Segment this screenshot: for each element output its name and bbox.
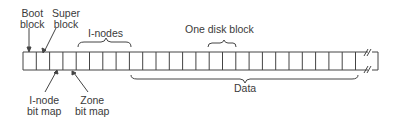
one-disk-block-label: One disk block [185, 24, 254, 35]
inodes-label: I-nodes [88, 28, 123, 39]
inode-bitmap-label: I-node bit map [27, 95, 61, 117]
data-label: Data [234, 83, 256, 94]
zone-bitmap-label: Zone bit map [75, 95, 109, 117]
super-block-label: Super block [52, 8, 80, 30]
boot-block-label: Boot block [20, 8, 45, 30]
